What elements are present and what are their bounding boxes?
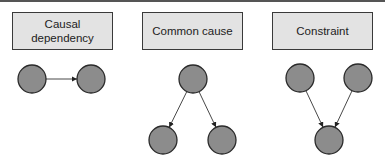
edge-arrow-C-D [169, 92, 187, 128]
nodes-group [18, 64, 372, 154]
node-circle-E [208, 126, 236, 154]
node-circle-D [149, 126, 177, 154]
edge-arrow-G-H [335, 91, 352, 128]
node-circle-A [18, 65, 46, 93]
node-circle-G [344, 64, 372, 92]
edge-arrow-F-H [306, 91, 323, 128]
node-circle-F [286, 64, 314, 92]
node-circle-C [179, 65, 207, 93]
edge-arrow-C-E [199, 92, 216, 128]
causal-graphs [0, 0, 385, 162]
node-circle-B [77, 65, 105, 93]
node-circle-H [315, 126, 343, 154]
